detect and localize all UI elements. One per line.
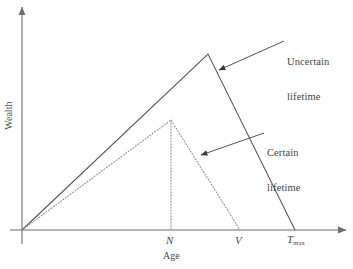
uncertain-lifetime-leader-line bbox=[219, 41, 284, 70]
wealth-age-figure: Uncertain lifetime Certain lifetime Age … bbox=[0, 0, 353, 269]
certain-lifetime-curve bbox=[22, 120, 240, 230]
annotation-certain-line2: lifetime bbox=[267, 182, 300, 194]
certain-lifetime-leader-line bbox=[201, 133, 264, 155]
x-axis-title: Age bbox=[163, 250, 180, 261]
x-tick-label-tmax: Tmax bbox=[287, 233, 305, 246]
annotation-uncertain-line1: Uncertain bbox=[287, 56, 329, 68]
annotation-certain-line1: Certain bbox=[267, 147, 300, 159]
annotation-uncertain-line2: lifetime bbox=[287, 91, 329, 103]
x-tick-label-n: N bbox=[166, 234, 173, 246]
y-axis-title: Wealth bbox=[3, 94, 14, 138]
annotation-uncertain-lifetime: Uncertain lifetime bbox=[287, 32, 329, 126]
annotation-certain-lifetime: Certain lifetime bbox=[267, 123, 300, 217]
uncertain-lifetime-curve bbox=[22, 54, 295, 230]
x-tick-label-v: V bbox=[235, 234, 242, 246]
x-tick-label-tmax-subscript: max bbox=[293, 239, 305, 246]
